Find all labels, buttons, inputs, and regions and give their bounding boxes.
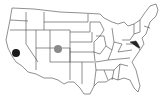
us-map	[0, 0, 166, 108]
colorado-marker[interactable]	[54, 45, 62, 53]
california-marker[interactable]	[12, 49, 20, 57]
state-outlines	[6, 4, 158, 94]
